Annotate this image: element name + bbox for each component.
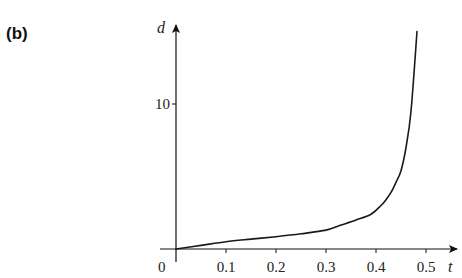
x-axis-label: t: [448, 258, 453, 275]
x-tick-label: 0.4: [367, 259, 386, 275]
y-tick-label: 10: [155, 96, 170, 112]
origin-label: 0: [158, 259, 166, 275]
y-axis-label: d: [157, 19, 166, 36]
chart: 0.10.20.30.40.510 d t 0: [0, 0, 462, 278]
x-tick-label: 0.3: [317, 259, 336, 275]
x-tick-label: 0.1: [217, 259, 236, 275]
series-line-d: [176, 32, 417, 250]
x-tick-label: 0.2: [267, 259, 286, 275]
x-tick-label: 0.5: [417, 259, 436, 275]
